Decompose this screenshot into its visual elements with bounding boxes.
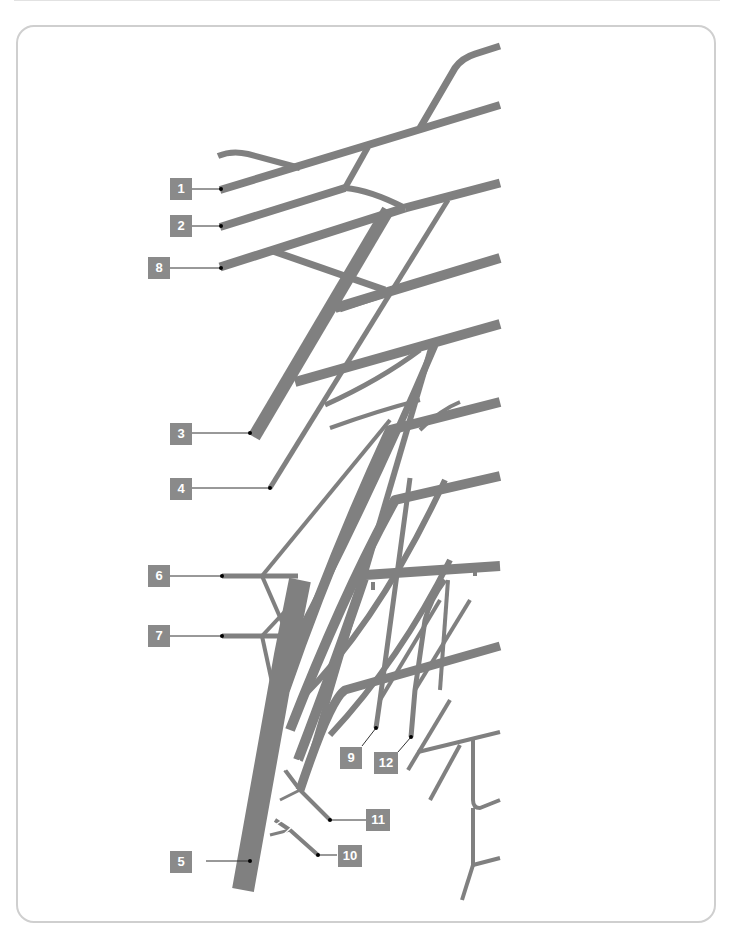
- callout-label-11: 11: [366, 809, 390, 831]
- callout-label-3: 3: [170, 423, 192, 445]
- callout-label-4: 4: [170, 478, 192, 500]
- branching-structure-diagram: [0, 0, 736, 942]
- callout-label-12: 12: [374, 752, 398, 774]
- callout-label-6: 6: [148, 565, 170, 587]
- callout-label-10: 10: [338, 845, 362, 867]
- callout-label-7: 7: [148, 625, 170, 647]
- callout-label-5: 5: [170, 851, 192, 873]
- callout-label-8: 8: [148, 257, 170, 279]
- callout-label-1: 1: [170, 178, 192, 200]
- callout-label-9: 9: [340, 747, 362, 769]
- callout-label-2: 2: [170, 215, 192, 237]
